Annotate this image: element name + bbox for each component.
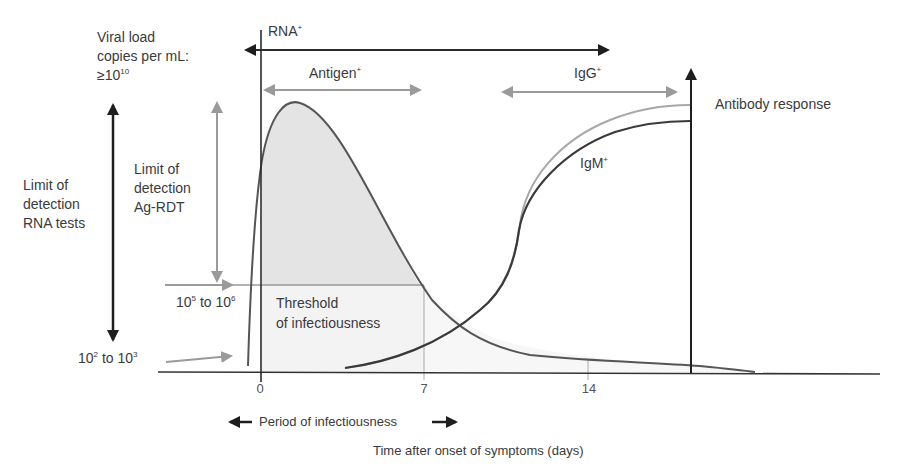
x-axis-title: Time after onset of symptoms (days): [373, 442, 583, 460]
x-tick-7: 7: [420, 381, 427, 396]
threshold-label-line1: Threshold: [276, 294, 338, 312]
viral-load-top-exponent: 10: [120, 67, 129, 76]
lod-ag-label-line3: Ag-RDT: [134, 198, 185, 216]
antigen-label: Antigen+: [309, 64, 361, 82]
viral-load-label-line1: Viral load: [97, 28, 155, 46]
rna-label: RNA+: [268, 22, 302, 40]
viral-load-diagram: Viral load copies per mL: ≥1010 RNA+ Ant…: [0, 0, 897, 468]
diagram-canvas: [0, 0, 897, 468]
x-tick-0: 0: [256, 381, 263, 396]
low-level-pointer: [166, 356, 231, 362]
threshold-level-label: 105 to 106: [176, 293, 236, 311]
x-axis: [158, 372, 880, 374]
lod-rna-label-line1: Limit of: [23, 176, 68, 194]
viral-load-label-line2: copies per mL:: [97, 47, 189, 65]
viral-load-top-value: ≥10: [97, 67, 120, 83]
x-tick-14: 14: [582, 381, 596, 396]
igm-label: IgM+: [580, 154, 608, 172]
antibody-response-label: Antibody response: [715, 95, 831, 113]
lod-ag-label-line2: detection: [134, 179, 191, 197]
lod-rna-label-line2: detection: [23, 195, 80, 213]
igg-label: IgG+: [574, 64, 601, 82]
lod-rna-label-line3: RNA tests: [23, 214, 85, 232]
period-of-infectiousness-label: Period of infectiousness: [259, 413, 397, 431]
low-level-label: 102 to 103: [78, 349, 138, 367]
viral-load-label-line3: ≥1010: [97, 66, 129, 84]
lod-ag-label-line1: Limit of: [134, 160, 179, 178]
threshold-label-line2: of infectiousness: [276, 314, 380, 332]
infectious-area-fill: [262, 102, 420, 285]
